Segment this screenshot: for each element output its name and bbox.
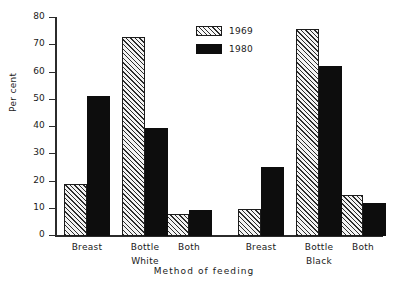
bar-1969-Both-white [166,214,189,236]
y-axis-tick: 0 [49,235,56,236]
y-axis-tick-label: 70 [33,38,45,49]
y-axis-tick-label: 80 [33,11,45,22]
x-axis-title: Method of feeding [0,266,408,276]
x-axis-group-label-white: White [105,256,185,266]
bar-1969-Breast-white [64,184,87,236]
y-axis-tick-label: 30 [33,147,45,158]
bar-1980-Both-white [189,210,212,236]
bar-1980-Bottle-black [319,66,342,236]
y-axis-title: Per cent [8,73,18,112]
bar-1980-Breast-white [87,96,110,236]
legend-swatch-solid-icon [196,44,222,54]
y-axis-tick: 50 [49,99,56,100]
y-axis-tick: 70 [49,44,56,45]
y-axis-tick: 40 [49,126,56,127]
y-axis-tick-label: 50 [33,93,45,104]
legend-item-1980: 1980 [196,42,253,55]
x-axis-group-label-black: Black [279,256,359,266]
bar-1980-Bottle-white [145,128,168,236]
bar-1969-Breast-black [238,209,261,236]
bar-1969-Both-black [340,195,363,236]
x-axis-category-label: Both [323,242,403,252]
legend-swatch-hatched-icon [196,26,222,36]
y-axis-tick-label: 10 [33,202,45,213]
y-axis-tick: 20 [49,181,56,182]
legend-label: 1980 [229,44,253,54]
y-axis-tick-label: 20 [33,175,45,186]
bar-1969-Bottle-white [122,37,145,236]
x-axis-category-label: Both [149,242,229,252]
legend-item-1969: 1969 [196,24,253,37]
bar-1969-Bottle-black [296,29,319,236]
y-axis-tick: 60 [49,72,56,73]
y-axis-tick: 80 [49,17,56,18]
y-axis-tick: 30 [49,153,56,154]
legend: 1969 1980 [196,24,253,60]
y-axis-tick-label: 60 [33,66,45,77]
bar-1980-Both-black [363,203,386,236]
legend-label: 1969 [229,26,253,36]
y-axis-tick-label: 0 [39,229,45,240]
bar-1980-Breast-black [261,167,284,236]
y-axis-tick: 10 [49,208,56,209]
bar-chart-figure: Per cent Method of feeding 0102030405060… [0,0,408,290]
y-axis-tick-label: 40 [33,120,45,131]
